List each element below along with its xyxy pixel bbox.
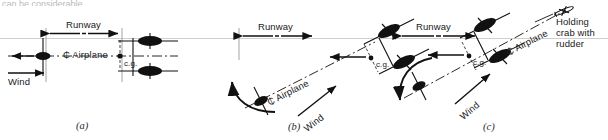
crab-note-line-1: Holding	[556, 16, 589, 27]
panel-c-cg-label: c.g.	[473, 58, 486, 67]
panel-b-runway-label: Runway	[258, 21, 293, 32]
crab-note-line-3: rudder	[556, 38, 584, 49]
panel-a-nose-gear	[36, 38, 51, 76]
panel-b-caption: (b)	[288, 121, 300, 132]
panel-a-wind-label: Wind	[8, 76, 30, 87]
panel-c-crab-leader-line	[535, 14, 553, 22]
panel-c-nose-gear	[411, 72, 427, 100]
crab-note-line-2: crab with	[556, 27, 595, 38]
panel-b-graphics	[232, 19, 429, 116]
panel-a-cg-label: c.g.	[124, 59, 137, 68]
panel-a-centerline-label: ₵ Airplane	[63, 49, 108, 60]
panel-a-caption: (a)	[76, 120, 88, 131]
panel-c-runway-label: Runway	[416, 21, 451, 32]
crosswind-landing-figure: can be considerable	[0, 0, 608, 140]
panel-c-main-gear	[460, 13, 524, 68]
panel-a-runway-label: Runway	[66, 19, 101, 30]
panel-b-cg-label: c.g.	[376, 60, 389, 69]
panel-c-graphics	[400, 4, 575, 104]
panel-c-caption: (c)	[483, 121, 495, 132]
